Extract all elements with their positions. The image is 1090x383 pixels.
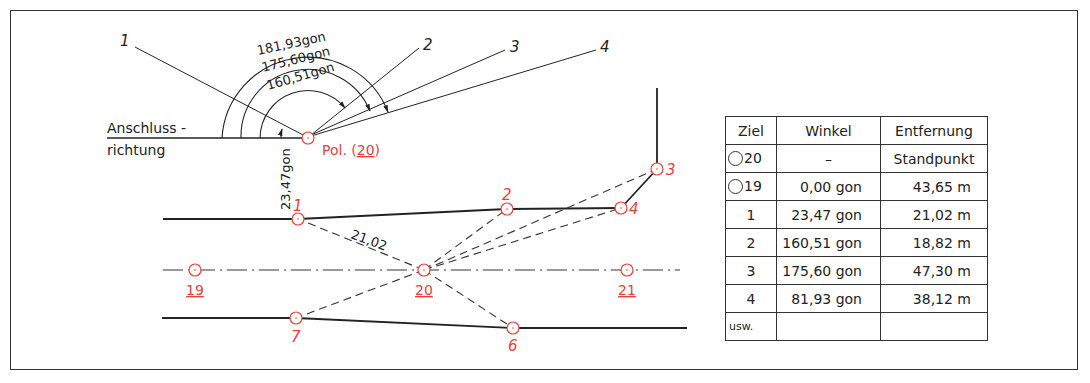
cell-entfernung: Standpunkt [881,145,988,173]
ray-label-1: 1 [120,32,130,50]
cell-ziel: 2 [726,229,777,257]
cell-entfernung: 18,82 m [881,229,988,257]
angle-label-vertical: 23,47gon [278,148,293,210]
rays [135,47,596,136]
cell-winkel: 175,60 gon [777,257,881,285]
header-winkel: Winkel [777,117,881,145]
header-ziel: Ziel [726,117,777,145]
table-row: 20 – Standpunkt [726,145,988,173]
point-label-19: 19 [186,282,204,298]
ray-label-4: 4 [600,38,610,56]
reference-label-line2: richtung [107,142,165,158]
cell-ziel: 1 [726,201,777,229]
point-label-3: 3 [666,161,676,179]
table-row: 1 23,47 gon 21,02 m [726,201,988,229]
cell-ziel: 20 [726,145,777,173]
cell-entfernung: 21,02 m [881,201,988,229]
point-label-7: 7 [291,328,301,346]
point-label-1: 1 [293,197,303,215]
road-edge-right [621,88,657,208]
ray-4 [311,50,596,136]
cell-entfernung [881,313,988,341]
ray-3 [311,50,505,135]
road-edge-top [163,208,621,219]
point-label-20: 20 [415,282,433,298]
cell-winkel: 23,47 gon [777,201,881,229]
cell-winkel [777,313,881,341]
measurement-table: Ziel Winkel Entfernung 20 – Standpunkt 1… [725,116,988,341]
point-centers [194,137,658,329]
point-label-4: 4 [629,200,639,218]
cell-ziel: usw. [726,313,777,341]
measurement-lines [296,169,657,328]
cell-ziel: 19 [726,173,777,201]
pol-label: Pol. (20) [322,142,380,158]
road-edge-bottom [162,318,687,328]
circle-icon [728,151,743,166]
header-entfernung: Entfernung [881,117,988,145]
table-row: 4 81,93 gon 38,12 m [726,285,988,313]
cell-entfernung: 43,65 m [881,173,988,201]
ray-label-2: 2 [423,36,433,54]
table-header-row: Ziel Winkel Entfernung [726,117,988,145]
reference-label-line1: Anschluss - [107,120,186,136]
table-row: 3 175,60 gon 47,30 m [726,257,988,285]
cell-winkel: 160,51 gon [777,229,881,257]
cell-ziel: 3 [726,257,777,285]
cell-entfernung: 47,30 m [881,257,988,285]
cell-winkel: – [777,145,881,173]
cell-entfernung: 38,12 m [881,285,988,313]
ray-label-3: 3 [510,38,520,56]
cell-ziel: 4 [726,285,777,313]
point-label-6: 6 [508,337,518,355]
cell-winkel: 0,00 gon [777,173,881,201]
circle-icon [728,179,743,194]
point-label-21: 21 [618,282,636,298]
cell-winkel: 81,93 gon [777,285,881,313]
table-row: usw. [726,313,988,341]
distance-label: 21,02 [349,227,389,254]
table-row: 2 160,51 gon 18,82 m [726,229,988,257]
table-row: 19 0,00 gon 43,65 m [726,173,988,201]
survey-points [189,132,663,334]
point-label-2: 2 [502,186,512,204]
